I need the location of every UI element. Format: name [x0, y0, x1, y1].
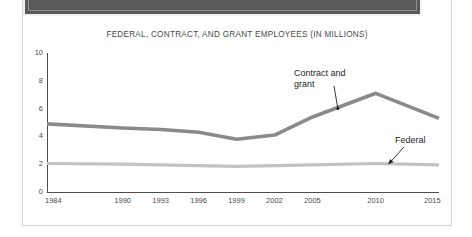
plot-area: 0 2 4 6 8 10 1984 1990 1993 1996 1999 20…	[22, 20, 452, 226]
frame-edge-top-right	[451, 0, 452, 20]
series-line-federal	[47, 164, 439, 167]
line-chart: FEDERAL, CONTRACT, AND GRANT EMPLOYEES (…	[22, 20, 452, 226]
annotation-line-1: Federal	[395, 135, 426, 146]
annotation-federal: Federal	[395, 135, 426, 146]
series-lines	[22, 20, 452, 226]
federal-leader-arrow	[388, 147, 404, 164]
annotation-contract-and-grant: Contract and grant	[294, 68, 346, 90]
series-line-contract-and-grant	[47, 93, 439, 139]
top-banner-container	[23, 0, 422, 18]
frame-edge-top-left	[22, 0, 23, 20]
top-banner-inner-border	[28, 0, 417, 11]
annotation-line-1: Contract and	[294, 68, 346, 79]
top-dark-banner	[23, 0, 422, 16]
annotation-line-2: grant	[294, 79, 346, 90]
